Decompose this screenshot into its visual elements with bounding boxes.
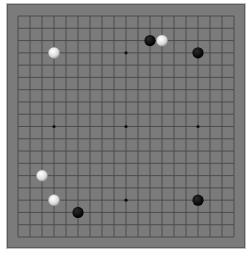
board-intersection[interactable] (156, 219, 168, 231)
board-intersection[interactable] (36, 84, 48, 96)
board-intersection[interactable] (168, 96, 180, 108)
board-intersection[interactable] (84, 10, 96, 22)
board-intersection[interactable] (216, 231, 228, 243)
board-intersection[interactable] (36, 47, 48, 59)
board-intersection[interactable] (180, 34, 192, 46)
board-intersection[interactable] (12, 10, 24, 22)
board-intersection[interactable] (132, 10, 144, 22)
board-intersection[interactable] (132, 59, 144, 71)
board-intersection[interactable] (132, 71, 144, 83)
board-intersection[interactable] (168, 182, 180, 194)
board-intersection[interactable] (144, 47, 156, 59)
board-intersection[interactable] (192, 120, 204, 132)
board-intersection[interactable] (84, 206, 96, 218)
board-intersection[interactable] (204, 219, 216, 231)
board-intersection[interactable] (228, 47, 240, 59)
board-intersection[interactable] (204, 47, 216, 59)
board-intersection[interactable] (216, 96, 228, 108)
board-intersection[interactable] (84, 120, 96, 132)
board-intersection[interactable] (72, 219, 84, 231)
board-intersection[interactable] (84, 133, 96, 145)
board-intersection[interactable] (204, 84, 216, 96)
board-intersection[interactable] (144, 108, 156, 120)
board-intersection[interactable] (84, 157, 96, 169)
board-intersection[interactable] (60, 96, 72, 108)
board-intersection[interactable] (84, 169, 96, 181)
board-intersection[interactable] (144, 71, 156, 83)
board-intersection[interactable] (228, 10, 240, 22)
board-intersection[interactable] (60, 194, 72, 206)
board-intersection[interactable] (204, 71, 216, 83)
board-intersection[interactable] (216, 108, 228, 120)
board-intersection[interactable] (192, 169, 204, 181)
board-intersection[interactable] (144, 34, 156, 46)
board-intersection[interactable] (12, 145, 24, 157)
board-intersection[interactable] (132, 219, 144, 231)
board-intersection[interactable] (132, 194, 144, 206)
board-intersection[interactable] (48, 194, 60, 206)
board-intersection[interactable] (12, 120, 24, 132)
board-intersection[interactable] (24, 231, 36, 243)
board-intersection[interactable] (36, 133, 48, 145)
board-intersection[interactable] (48, 108, 60, 120)
board-intersection[interactable] (228, 169, 240, 181)
board-intersection[interactable] (12, 182, 24, 194)
board-intersection[interactable] (120, 22, 132, 34)
board-intersection[interactable] (36, 169, 48, 181)
board-intersection[interactable] (132, 145, 144, 157)
board-intersection[interactable] (60, 108, 72, 120)
board-intersection[interactable] (144, 22, 156, 34)
board-intersection[interactable] (72, 108, 84, 120)
board-intersection[interactable] (132, 22, 144, 34)
board-intersection[interactable] (132, 120, 144, 132)
board-intersection[interactable] (60, 219, 72, 231)
board-intersection[interactable] (36, 182, 48, 194)
board-intersection[interactable] (156, 157, 168, 169)
board-intersection[interactable] (120, 206, 132, 218)
board-intersection[interactable] (192, 231, 204, 243)
board-intersection[interactable] (72, 10, 84, 22)
board-intersection[interactable] (12, 219, 24, 231)
board-intersection[interactable] (36, 157, 48, 169)
board-intersection[interactable] (192, 194, 204, 206)
board-intersection[interactable] (24, 84, 36, 96)
board-intersection[interactable] (216, 206, 228, 218)
board-intersection[interactable] (120, 145, 132, 157)
board-intersection[interactable] (180, 182, 192, 194)
board-intersection[interactable] (108, 47, 120, 59)
board-intersection[interactable] (156, 59, 168, 71)
board-intersection[interactable] (204, 96, 216, 108)
board-intersection[interactable] (132, 169, 144, 181)
board-intersection[interactable] (96, 194, 108, 206)
board-intersection[interactable] (108, 120, 120, 132)
board-intersection[interactable] (168, 10, 180, 22)
board-intersection[interactable] (60, 34, 72, 46)
go-board-grid[interactable] (0, 0, 250, 258)
board-intersection[interactable] (180, 96, 192, 108)
board-intersection[interactable] (168, 169, 180, 181)
board-intersection[interactable] (180, 133, 192, 145)
board-intersection[interactable] (132, 231, 144, 243)
board-intersection[interactable] (24, 108, 36, 120)
board-intersection[interactable] (144, 157, 156, 169)
board-intersection[interactable] (180, 71, 192, 83)
board-intersection[interactable] (60, 71, 72, 83)
board-intersection[interactable] (96, 10, 108, 22)
board-intersection[interactable] (132, 108, 144, 120)
board-intersection[interactable] (72, 231, 84, 243)
board-intersection[interactable] (168, 145, 180, 157)
board-intersection[interactable] (180, 231, 192, 243)
board-intersection[interactable] (60, 22, 72, 34)
board-intersection[interactable] (204, 10, 216, 22)
board-intersection[interactable] (84, 59, 96, 71)
board-intersection[interactable] (48, 145, 60, 157)
board-intersection[interactable] (108, 22, 120, 34)
board-intersection[interactable] (180, 194, 192, 206)
board-intersection[interactable] (216, 10, 228, 22)
board-intersection[interactable] (48, 96, 60, 108)
board-intersection[interactable] (24, 182, 36, 194)
board-intersection[interactable] (204, 59, 216, 71)
board-intersection[interactable] (168, 22, 180, 34)
board-intersection[interactable] (192, 182, 204, 194)
board-intersection[interactable] (84, 22, 96, 34)
